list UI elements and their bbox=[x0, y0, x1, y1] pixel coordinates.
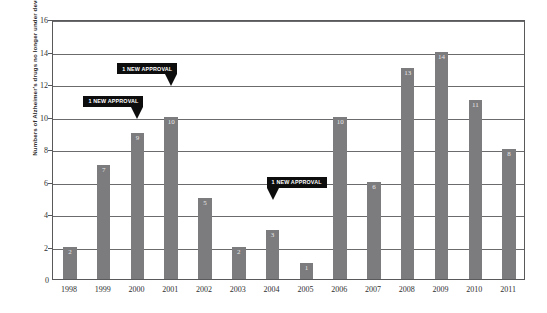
annotation-arrow-icon-3 bbox=[267, 188, 279, 200]
bar-rect-2005: 1 bbox=[300, 263, 314, 279]
bar-2000[interactable]: 9 bbox=[131, 21, 145, 279]
bar-2009[interactable]: 14 bbox=[435, 21, 449, 279]
annotation-arrow-icon-2 bbox=[165, 74, 177, 86]
bar-2002[interactable]: 5 bbox=[198, 21, 212, 279]
bar-2007[interactable]: 6 bbox=[367, 21, 381, 279]
bar-value-label-2007: 6 bbox=[367, 183, 381, 192]
y-axis-tick-10: 10 bbox=[26, 113, 48, 122]
y-axis-tickmark-6 bbox=[48, 183, 53, 184]
y-axis-tick-16: 16 bbox=[26, 16, 48, 25]
bar-value-label-2001: 10 bbox=[164, 118, 178, 127]
bar-value-label-2000: 9 bbox=[131, 134, 145, 143]
y-axis-tickmark-8 bbox=[48, 150, 53, 151]
y-axis-tick-14: 14 bbox=[26, 48, 48, 57]
bar-value-label-2003: 2 bbox=[232, 248, 246, 257]
bar-rect-1999: 7 bbox=[97, 165, 111, 279]
bar-value-label-2010: 11 bbox=[469, 101, 483, 110]
x-axis-tick-2003: 2003 bbox=[230, 285, 246, 294]
y-axis-tick-12: 12 bbox=[26, 81, 48, 90]
bar-rect-2007: 6 bbox=[367, 182, 381, 280]
y-axis-tickmark-4 bbox=[48, 215, 53, 216]
x-axis-tick-2008: 2008 bbox=[399, 285, 415, 294]
y-axis-tickmark-12 bbox=[48, 85, 53, 86]
bar-value-label-1998: 2 bbox=[63, 248, 77, 257]
bar-2003[interactable]: 2 bbox=[232, 21, 246, 279]
bar-2011[interactable]: 8 bbox=[502, 21, 516, 279]
bar-rect-2004: 3 bbox=[266, 230, 280, 279]
bar-value-label-2002: 5 bbox=[198, 199, 212, 208]
x-axis-tick-2001: 2001 bbox=[162, 285, 178, 294]
bar-value-label-2006: 10 bbox=[333, 118, 347, 127]
x-axis-tick-2000: 2000 bbox=[128, 285, 144, 294]
bar-2001[interactable]: 10 bbox=[164, 21, 178, 279]
bar-2010[interactable]: 11 bbox=[469, 21, 483, 279]
bar-rect-2010: 11 bbox=[469, 100, 483, 279]
bar-2008[interactable]: 13 bbox=[401, 21, 415, 279]
bar-1999[interactable]: 7 bbox=[97, 21, 111, 279]
bar-2004[interactable]: 3 bbox=[266, 21, 280, 279]
plot-area: 2791052311061314118 1 NEW APPROVAL1 NEW … bbox=[52, 20, 525, 280]
bar-rect-2011: 8 bbox=[502, 149, 516, 279]
y-axis-tick-8: 8 bbox=[26, 146, 48, 155]
bar-rect-2006: 10 bbox=[333, 117, 347, 280]
bar-chart: Numbers of Alzheimer's drugs no longer u… bbox=[0, 0, 547, 313]
bar-rect-1998: 2 bbox=[63, 247, 77, 280]
bar-rect-2000: 9 bbox=[131, 133, 145, 279]
y-axis-tick-2: 2 bbox=[26, 243, 48, 252]
x-axis-tick-2009: 2009 bbox=[433, 285, 449, 294]
bar-2006[interactable]: 10 bbox=[333, 21, 347, 279]
bar-rect-2001: 10 bbox=[164, 117, 178, 280]
bar-value-label-2005: 1 bbox=[300, 264, 314, 273]
x-axis-tick-2010: 2010 bbox=[466, 285, 482, 294]
bar-1998[interactable]: 2 bbox=[63, 21, 77, 279]
y-axis-tickmark-16 bbox=[48, 20, 53, 21]
annotation-label-3: 1 NEW APPROVAL bbox=[267, 177, 327, 188]
x-axis-tick-2004: 2004 bbox=[264, 285, 280, 294]
x-axis-tick-1998: 1998 bbox=[61, 285, 77, 294]
bar-rect-2008: 13 bbox=[401, 68, 415, 279]
y-axis-tick-4: 4 bbox=[26, 211, 48, 220]
x-axis-tick-2006: 2006 bbox=[331, 285, 347, 294]
y-axis-tickmark-10 bbox=[48, 118, 53, 119]
bar-rect-2003: 2 bbox=[232, 247, 246, 280]
x-axis-tick-2011: 2011 bbox=[500, 285, 516, 294]
x-axis-tick-2002: 2002 bbox=[196, 285, 212, 294]
x-axis-tick-1999: 1999 bbox=[95, 285, 111, 294]
annotation-arrow-icon-1 bbox=[131, 107, 143, 119]
annotation-label-2: 1 NEW APPROVAL bbox=[117, 63, 177, 74]
bar-2005[interactable]: 1 bbox=[300, 21, 314, 279]
bar-value-label-2004: 3 bbox=[266, 231, 280, 240]
bar-rect-2009: 14 bbox=[435, 52, 449, 280]
y-axis-tickmark-14 bbox=[48, 53, 53, 54]
bar-value-label-2011: 8 bbox=[502, 150, 516, 159]
annotation-label-1: 1 NEW APPROVAL bbox=[83, 96, 143, 107]
bar-value-label-2008: 13 bbox=[401, 69, 415, 78]
bars-layer: 2791052311061314118 bbox=[53, 21, 524, 279]
y-axis-tickmark-2 bbox=[48, 248, 53, 249]
y-axis-tick-0: 0 bbox=[38, 276, 49, 285]
x-axis-tick-2005: 2005 bbox=[297, 285, 313, 294]
bar-rect-2002: 5 bbox=[198, 198, 212, 279]
y-axis-tick-6: 6 bbox=[26, 178, 48, 187]
bar-value-label-1999: 7 bbox=[97, 166, 111, 175]
x-axis-tick-2007: 2007 bbox=[365, 285, 381, 294]
bar-value-label-2009: 14 bbox=[435, 53, 449, 62]
